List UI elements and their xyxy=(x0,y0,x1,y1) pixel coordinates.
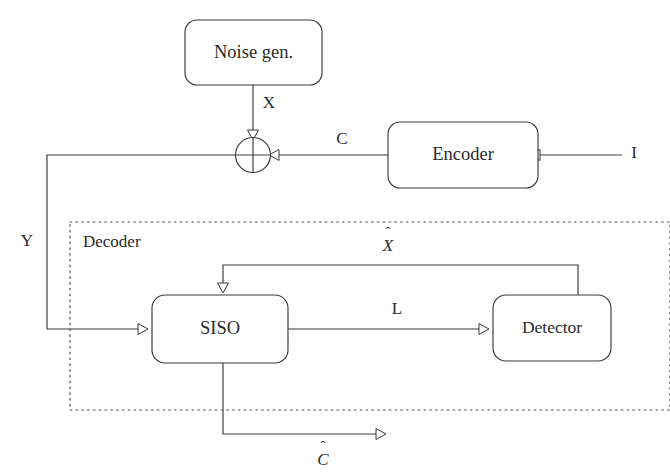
signal-label-c-hat: ˆ C xyxy=(317,438,329,468)
x-hat-base: X xyxy=(382,236,394,255)
signal-label-c: C xyxy=(336,129,347,148)
signal-label-l: L xyxy=(392,299,402,318)
wire-xhat-feedback xyxy=(223,265,578,295)
arrowhead-y-into-siso xyxy=(138,324,148,335)
c-hat-base: C xyxy=(317,450,329,469)
block-diagram-figure: Noise gen. Encoder SISO Detector Decoder… xyxy=(0,0,670,476)
arrowhead-chat-output xyxy=(376,429,386,440)
diagram-canvas: Noise gen. Encoder SISO Detector Decoder… xyxy=(0,0,670,476)
signal-label-y: Y xyxy=(21,231,33,250)
block-noise-gen-label: Noise gen. xyxy=(214,42,293,62)
block-siso-label: SISO xyxy=(200,318,240,338)
decoder-group-label: Decoder xyxy=(83,232,141,251)
signal-label-i: I xyxy=(631,143,637,162)
block-encoder-label: Encoder xyxy=(432,144,494,164)
arrowhead-xhat-into-siso xyxy=(218,283,229,293)
block-detector-label: Detector xyxy=(522,317,582,337)
arrowhead-l-into-detector xyxy=(479,324,489,335)
wire-chat-output xyxy=(223,363,378,434)
signal-label-x: X xyxy=(263,93,275,112)
signal-label-x-hat: ˆ X xyxy=(382,224,394,254)
